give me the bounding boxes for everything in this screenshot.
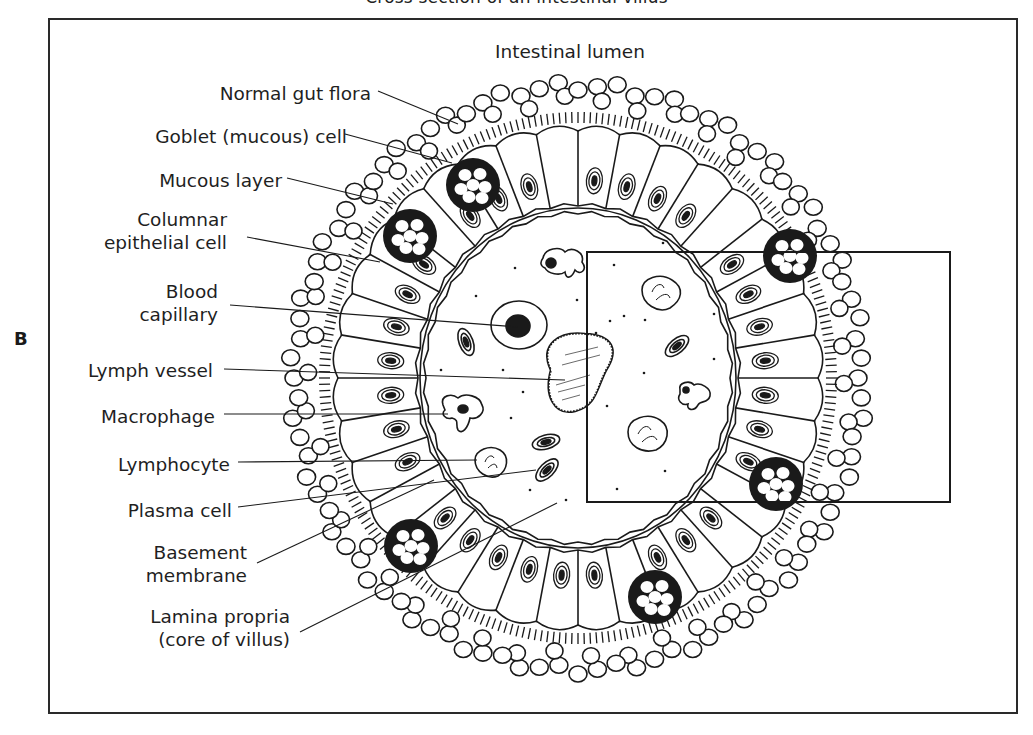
lymphocyte-icon xyxy=(475,448,507,477)
blood-capillary-icon xyxy=(491,301,547,349)
goblet-cell-icon xyxy=(383,209,437,263)
goblet-cell-icon xyxy=(446,158,500,212)
goblet-cell-icon xyxy=(628,570,682,624)
goblet-cell-icon xyxy=(384,519,438,573)
villus-cross-section-diagram xyxy=(0,0,1033,735)
lymphocyte-icon xyxy=(628,416,667,451)
goblet-cell-icon xyxy=(763,229,817,283)
